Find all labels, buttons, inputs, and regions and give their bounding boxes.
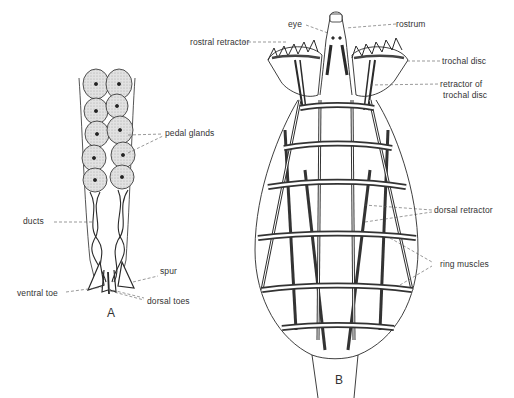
pedal-glands-left — [82, 69, 109, 192]
label-rostral-retractor: rostral retractor — [190, 37, 249, 47]
label-retractor-of-trochal-disc-line2: trochal disc — [443, 90, 487, 100]
label-retractor-of-trochal-disc-line1: retractor of — [440, 79, 482, 89]
trochal-disc-right — [352, 38, 408, 110]
ring-muscles — [258, 105, 416, 328]
panel-letter-a: A — [107, 306, 115, 320]
panel-a-drawing — [79, 69, 135, 294]
label-spur: spur — [160, 266, 177, 276]
label-eye: eye — [288, 19, 302, 29]
pedal-glands-right — [106, 69, 135, 189]
label-dorsal-retractor: dorsal retractor — [434, 205, 493, 215]
dorsal-retractor-muscles — [262, 100, 412, 350]
trochal-disc-left — [268, 40, 322, 110]
panel-b-drawing — [255, 12, 418, 398]
label-trochal-disc: trochal disc — [442, 56, 486, 66]
label-rostrum: rostrum — [396, 19, 426, 29]
label-ducts: ducts — [23, 216, 44, 226]
toes-drawing — [88, 262, 134, 294]
figure-drawing — [0, 0, 514, 398]
panel-letter-b: B — [335, 373, 343, 387]
label-ventral-toe: ventral toe — [17, 288, 58, 298]
rotifer-anatomy-figure: pedal glands ducts spur ventral toe dors… — [0, 0, 514, 398]
label-ring-muscles: ring muscles — [440, 259, 489, 269]
label-pedal-glands: pedal glands — [165, 128, 214, 138]
label-dorsal-toes: dorsal toes — [147, 296, 190, 306]
